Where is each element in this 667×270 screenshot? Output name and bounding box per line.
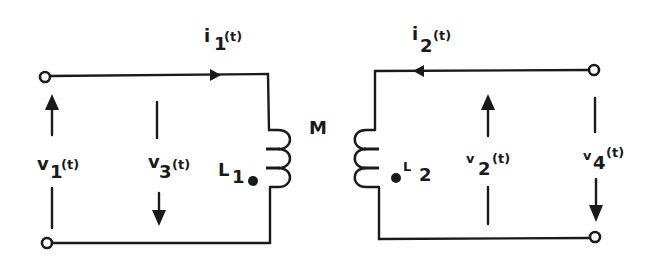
primary-top-wire	[50, 74, 269, 130]
inductor-label-l2: L 2	[403, 159, 432, 185]
v1-arrow-up-icon	[45, 94, 59, 110]
svg-text:(t): (t)	[492, 151, 510, 166]
v3-arrow-down-icon	[152, 210, 166, 226]
polarity-dot-l2	[391, 173, 401, 183]
svg-text:2: 2	[478, 158, 491, 179]
secondary-top-wire	[375, 70, 589, 130]
voltage-label-v3: v 3 (t)	[148, 151, 190, 182]
svg-text:(t): (t)	[433, 28, 451, 43]
svg-text:i: i	[204, 25, 210, 46]
svg-text:v: v	[583, 148, 592, 163]
current-label-i1: i 1 (t)	[204, 25, 242, 54]
terminal-secondary-bottom	[590, 232, 600, 242]
svg-text:i: i	[412, 23, 418, 44]
svg-text:(t): (t)	[172, 157, 190, 172]
terminal-secondary-top	[589, 65, 599, 75]
inductor-label-l1: L 1	[218, 159, 245, 187]
terminal-primary-top	[40, 72, 50, 82]
svg-text:v: v	[466, 151, 475, 166]
svg-text:1: 1	[232, 166, 245, 187]
mutual-inductance-label: M	[309, 117, 327, 138]
svg-text:(t): (t)	[224, 29, 242, 44]
inductor-l2-coil	[355, 130, 379, 187]
svg-text:2: 2	[420, 35, 433, 56]
svg-text:v: v	[37, 153, 49, 174]
voltage-label-v2: v 2 (t)	[466, 151, 510, 179]
v4-arrow-down-icon	[589, 205, 603, 222]
current-arrow-i2-icon	[413, 65, 424, 77]
svg-text:4: 4	[593, 152, 606, 173]
svg-text:(t): (t)	[606, 145, 624, 160]
svg-text:2: 2	[419, 164, 432, 185]
voltage-label-v4: v 4 (t)	[583, 145, 624, 173]
coupled-inductor-diagram: M i 1 (t) i 2 (t) v 1 (t) v 3 (t) L 1 L …	[0, 0, 667, 270]
svg-text:L: L	[218, 159, 229, 180]
current-arrow-i1-icon	[210, 69, 221, 81]
svg-text:L: L	[403, 159, 411, 174]
svg-text:(t): (t)	[61, 157, 79, 172]
secondary-circuit	[355, 65, 603, 242]
polarity-dot-l1	[248, 176, 258, 186]
v2-arrow-up-icon	[481, 94, 495, 110]
voltage-label-v1: v 1 (t)	[37, 153, 79, 182]
terminal-primary-bottom	[42, 238, 52, 248]
svg-text:3: 3	[159, 161, 172, 182]
inductor-l1-coil	[268, 130, 290, 187]
current-label-i2: i 2 (t)	[412, 23, 451, 56]
secondary-bottom-wire	[379, 187, 590, 239]
